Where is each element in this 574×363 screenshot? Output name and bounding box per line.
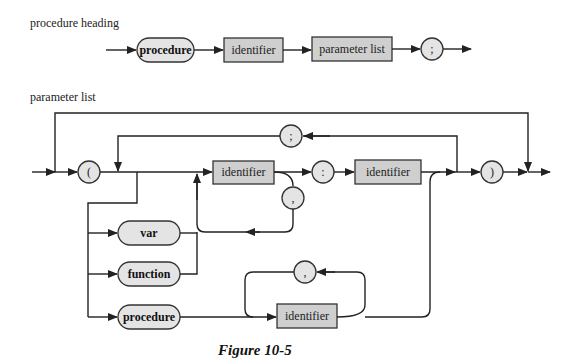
name-loop-bottom bbox=[248, 209, 293, 232]
name-loop-right bbox=[274, 172, 293, 186]
procedure-keyword-text: procedure bbox=[123, 310, 176, 324]
semicolon-text: ; bbox=[430, 42, 433, 56]
proc-identifier-text: identifier bbox=[285, 309, 329, 323]
function-keyword-text: function bbox=[128, 267, 171, 281]
type-identifier-text: identifier bbox=[366, 165, 410, 179]
procedure-heading-title: procedure heading bbox=[30, 16, 119, 30]
parameter-list-diagram: ( ; identifier : identifier ) , bbox=[32, 113, 550, 329]
proc-exit-path bbox=[365, 172, 440, 317]
var-keyword-text: var bbox=[140, 226, 158, 240]
function-merge bbox=[180, 232, 197, 274]
proc-separator-text: , bbox=[304, 265, 307, 279]
figure-caption: Figure 10-5 bbox=[217, 342, 292, 358]
name-loop-left bbox=[197, 182, 246, 232]
parameter-list-text: parameter list bbox=[319, 42, 385, 56]
name-separator-text: , bbox=[292, 191, 295, 205]
close-paren-text: ) bbox=[490, 165, 494, 179]
parameter-list-title: parameter list bbox=[30, 90, 96, 104]
syntax-diagrams: procedure heading procedure identifier p… bbox=[0, 0, 574, 363]
open-paren-text: ( bbox=[87, 165, 91, 179]
group-separator-text: ; bbox=[289, 129, 292, 143]
colon-text: : bbox=[321, 165, 324, 179]
identifier-text: identifier bbox=[232, 43, 276, 57]
procedure-keyword-text: procedure bbox=[139, 43, 192, 57]
procedure-heading-diagram: procedure identifier parameter list ; bbox=[106, 37, 471, 62]
identifier-text: identifier bbox=[222, 165, 266, 179]
